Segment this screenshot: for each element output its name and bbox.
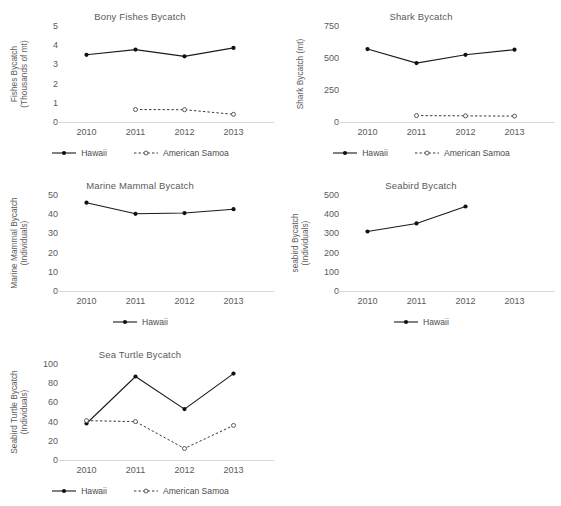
y-axis-label-line: (Individuals) — [19, 370, 29, 453]
x-tick-label: 2011 — [126, 296, 145, 306]
x-tick-label: 2013 — [223, 465, 243, 475]
x-tick-label: 2011 — [407, 296, 426, 306]
legend-item-hawaii[interactable]: Hawaii — [112, 317, 168, 327]
y-tick-label: 20 — [48, 248, 58, 258]
data-point-marker — [183, 446, 187, 450]
x-axis-line-marine-mammal — [56, 291, 274, 292]
y-tick-label: 200 — [324, 248, 339, 258]
series-line-hawaii — [368, 49, 515, 63]
legend-sea-turtle: HawaiiAmerican Samoa — [22, 486, 258, 496]
legend-solid-line-icon — [51, 487, 77, 495]
y-tick-label: 10 — [48, 267, 58, 277]
legend-label: Hawaii — [362, 148, 388, 158]
y-tick-label: 1 — [53, 98, 58, 108]
legend-dashed-line-icon — [414, 149, 440, 157]
plot-wrap-shark: Shark Bycatch (mt)0250500750201020112012… — [281, 4, 561, 170]
legend-label: American Samoa — [163, 486, 229, 496]
data-point-marker — [463, 53, 467, 57]
series-line-hawaii — [87, 203, 234, 214]
y-axis-ticks-marine-mammal: 01020304050 — [32, 195, 58, 291]
x-tick-label: 2011 — [126, 465, 145, 475]
x-tick-label: 2013 — [223, 127, 243, 137]
chart-panel-seabird: Seabird Bycatchseabird Bycatch(Individua… — [281, 173, 561, 339]
y-tick-label: 60 — [48, 397, 58, 407]
x-tick-label: 2012 — [174, 296, 194, 306]
y-tick-label: 40 — [48, 417, 58, 427]
data-point-marker — [182, 54, 186, 58]
legend-solid-line-icon — [393, 318, 419, 326]
legend-shark: HawaiiAmerican Samoa — [303, 148, 539, 158]
data-point-marker — [414, 221, 418, 225]
data-point-marker — [133, 212, 137, 216]
data-point-marker — [512, 48, 516, 52]
y-tick-label: 400 — [324, 209, 339, 219]
plot-area-seabird — [343, 195, 539, 291]
legend-item-american-samoa[interactable]: American Samoa — [133, 486, 229, 496]
plot-area-marine-mammal — [62, 195, 258, 291]
legend-item-hawaii[interactable]: Hawaii — [393, 317, 449, 327]
series-line-american-samoa — [87, 421, 234, 449]
y-tick-label: 20 — [48, 436, 58, 446]
y-axis-label-line: Seabird Turtle Bycatch — [9, 370, 19, 453]
legend-item-american-samoa[interactable]: American Samoa — [133, 148, 229, 158]
x-tick-label: 2012 — [174, 465, 194, 475]
legend-solid-line-icon — [332, 149, 358, 157]
y-tick-label: 50 — [48, 190, 58, 200]
data-point-marker — [85, 419, 89, 423]
y-axis-ticks-shark: 0250500750 — [313, 26, 339, 122]
data-point-marker — [232, 112, 236, 116]
x-axis-ticks-seabird: 2010201120122013 — [343, 294, 539, 308]
data-point-marker — [414, 61, 418, 65]
chart-panel-sea-turtle: Sea Turtle BycatchSeabird Turtle Bycatch… — [0, 342, 280, 506]
x-axis-ticks-bony-fishes: 2010201120122013 — [62, 125, 258, 139]
y-tick-label: 5 — [53, 21, 58, 31]
legend-label: Hawaii — [142, 317, 168, 327]
data-point-marker — [231, 46, 235, 50]
chart-panel-bony-fishes: Bony Fishes BycatchFishes Bycatch(Thousa… — [0, 4, 280, 170]
legend-item-hawaii[interactable]: Hawaii — [332, 148, 388, 158]
series-line-hawaii — [87, 374, 234, 424]
legend-dashed-line-icon — [133, 487, 159, 495]
data-point-marker — [231, 207, 235, 211]
data-point-marker — [134, 108, 138, 112]
x-axis-line-bony-fishes — [56, 122, 274, 123]
y-tick-label: 3 — [53, 59, 58, 69]
x-tick-label: 2013 — [223, 296, 243, 306]
y-tick-label: 500 — [324, 190, 339, 200]
plot-wrap-marine-mammal: Marine Mammal Bycatch(Individuals)010203… — [0, 173, 280, 339]
data-point-marker — [84, 201, 88, 205]
legend-solid-line-icon — [112, 318, 138, 326]
y-tick-label: 300 — [324, 228, 339, 238]
legend-item-hawaii[interactable]: Hawaii — [51, 486, 107, 496]
x-tick-label: 2010 — [357, 127, 377, 137]
legend-marine-mammal: Hawaii — [22, 317, 258, 327]
y-axis-ticks-seabird: 0100200300400500 — [313, 195, 339, 291]
legend-item-american-samoa[interactable]: American Samoa — [414, 148, 510, 158]
y-tick-label: 2 — [53, 79, 58, 89]
y-tick-label: 30 — [48, 228, 58, 238]
y-tick-label: 40 — [48, 209, 58, 219]
series-line-hawaii — [87, 48, 234, 56]
y-axis-label-seabird: seabird Bycatch(Individuals) — [283, 195, 317, 291]
chart-panel-shark: Shark BycatchShark Bycatch (mt)025050075… — [281, 4, 561, 170]
data-point-marker — [183, 108, 187, 112]
x-tick-label: 2010 — [357, 296, 377, 306]
x-tick-label: 2012 — [174, 127, 194, 137]
y-axis-label-sea-turtle: Seabird Turtle Bycatch(Individuals) — [2, 364, 36, 460]
x-tick-label: 2010 — [76, 296, 96, 306]
legend-label: Hawaii — [423, 317, 449, 327]
y-axis-label-marine-mammal: Marine Mammal Bycatch(Individuals) — [2, 195, 36, 291]
data-point-marker — [464, 114, 468, 118]
y-axis-ticks-sea-turtle: 020406080100 — [32, 364, 58, 460]
legend-label: Hawaii — [81, 486, 107, 496]
legend-seabird: Hawaii — [303, 317, 539, 327]
data-point-marker — [365, 47, 369, 51]
x-axis-line-sea-turtle — [56, 460, 274, 461]
x-tick-label: 2013 — [504, 127, 524, 137]
legend-item-hawaii[interactable]: Hawaii — [51, 148, 107, 158]
legend-label: American Samoa — [163, 148, 229, 158]
chart-panel-marine-mammal: Marine Mammal BycatchMarine Mammal Bycat… — [0, 173, 280, 339]
data-point-marker — [513, 114, 517, 118]
legend-solid-line-icon — [51, 149, 77, 157]
figure-panel-grid: Bony Fishes BycatchFishes Bycatch(Thousa… — [0, 0, 561, 506]
